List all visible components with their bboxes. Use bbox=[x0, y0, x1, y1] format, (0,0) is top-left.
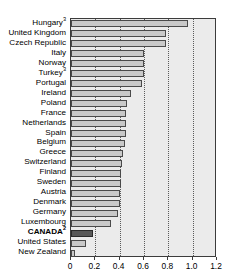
bar bbox=[71, 140, 125, 147]
bar bbox=[71, 170, 121, 177]
bar bbox=[71, 50, 144, 57]
axis-tick-label: 0.8 bbox=[162, 261, 174, 271]
category-label: CANADA2 bbox=[28, 227, 66, 237]
category-label: Spain bbox=[45, 128, 66, 138]
bar bbox=[71, 20, 188, 27]
bar bbox=[71, 180, 121, 187]
category-label: United States bbox=[17, 237, 66, 247]
category-label: United Kingdom bbox=[8, 28, 66, 38]
axis-tick bbox=[167, 257, 168, 260]
axis-tick bbox=[143, 257, 144, 260]
category-label: Denmark bbox=[33, 197, 66, 207]
category-label: New Zealand bbox=[18, 247, 66, 257]
category-label: Poland bbox=[41, 98, 66, 108]
axis-tick-label: 0 bbox=[68, 261, 73, 271]
bar bbox=[71, 60, 144, 67]
bar bbox=[71, 80, 142, 87]
footnote-marker: 2 bbox=[63, 225, 66, 231]
category-label: Finland bbox=[39, 167, 66, 177]
bar bbox=[71, 250, 75, 257]
axis-tick bbox=[70, 257, 71, 260]
footnote-marker: 3 bbox=[63, 16, 66, 22]
category-label: Belgium bbox=[37, 137, 66, 147]
category-label: Switzerland bbox=[24, 157, 66, 167]
category-label: Turkey3 bbox=[38, 68, 66, 78]
category-label: Sweden bbox=[37, 177, 66, 187]
category-axis-labels: Hungary3United KingdomCzech RepublicItal… bbox=[0, 18, 68, 257]
plot-area bbox=[70, 18, 216, 257]
bar bbox=[71, 100, 127, 107]
bar bbox=[71, 200, 120, 207]
axis-tick-label: 0.2 bbox=[89, 261, 101, 271]
category-label: France bbox=[41, 108, 66, 118]
axis-tick-label: 0.4 bbox=[113, 261, 125, 271]
bar bbox=[71, 210, 118, 217]
bar bbox=[71, 40, 166, 47]
axis-tick bbox=[94, 257, 95, 260]
category-label: Austria bbox=[41, 187, 66, 197]
axis-tick bbox=[192, 257, 193, 260]
bar bbox=[71, 240, 86, 247]
category-label: Netherlands bbox=[22, 118, 66, 128]
bar bbox=[71, 150, 123, 157]
bar bbox=[71, 130, 126, 137]
category-label: Greece bbox=[39, 147, 66, 157]
bar bbox=[71, 90, 131, 97]
category-label: Italy bbox=[51, 48, 66, 58]
axis-tick-label: 1.2 bbox=[210, 261, 222, 271]
axis-tick-label: 1.0 bbox=[186, 261, 198, 271]
bar bbox=[71, 220, 111, 227]
axis-tick bbox=[216, 257, 217, 260]
category-label: Portugal bbox=[36, 78, 66, 88]
bar bbox=[71, 70, 144, 77]
bar-chart: Hungary3United KingdomCzech RepublicItal… bbox=[0, 0, 225, 279]
bar bbox=[71, 30, 166, 37]
value-axis: 00.20.40.60.81.01.2 bbox=[70, 257, 216, 279]
axis-tick bbox=[119, 257, 120, 260]
bar bbox=[71, 230, 93, 237]
bar bbox=[71, 120, 126, 127]
category-label: Germany bbox=[33, 207, 66, 217]
bars-layer bbox=[71, 19, 215, 256]
bar bbox=[71, 190, 120, 197]
category-label: Norway bbox=[39, 58, 66, 68]
category-label: Czech Republic bbox=[9, 38, 66, 48]
category-label: Luxembourg bbox=[21, 217, 66, 227]
category-label: Hungary3 bbox=[32, 18, 66, 28]
bar bbox=[71, 110, 126, 117]
bar bbox=[71, 160, 122, 167]
category-label: Ireland bbox=[41, 88, 66, 98]
footnote-marker: 3 bbox=[63, 66, 66, 72]
axis-tick-label: 0.6 bbox=[137, 261, 149, 271]
